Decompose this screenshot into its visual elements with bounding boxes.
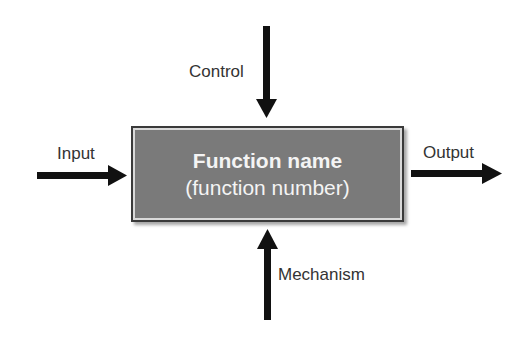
mechanism-label: Mechanism [278, 265, 365, 285]
input-arrow [37, 165, 127, 186]
control-arrow [256, 26, 277, 118]
input-label: Input [57, 144, 95, 164]
function-name: Function name [193, 148, 342, 174]
output-arrow [411, 163, 502, 184]
control-label: Control [189, 62, 244, 82]
function-number: (function number) [185, 174, 350, 201]
output-label: Output [423, 143, 474, 163]
function-box: Function name (function number) [131, 126, 404, 222]
mechanism-arrow [257, 229, 278, 320]
